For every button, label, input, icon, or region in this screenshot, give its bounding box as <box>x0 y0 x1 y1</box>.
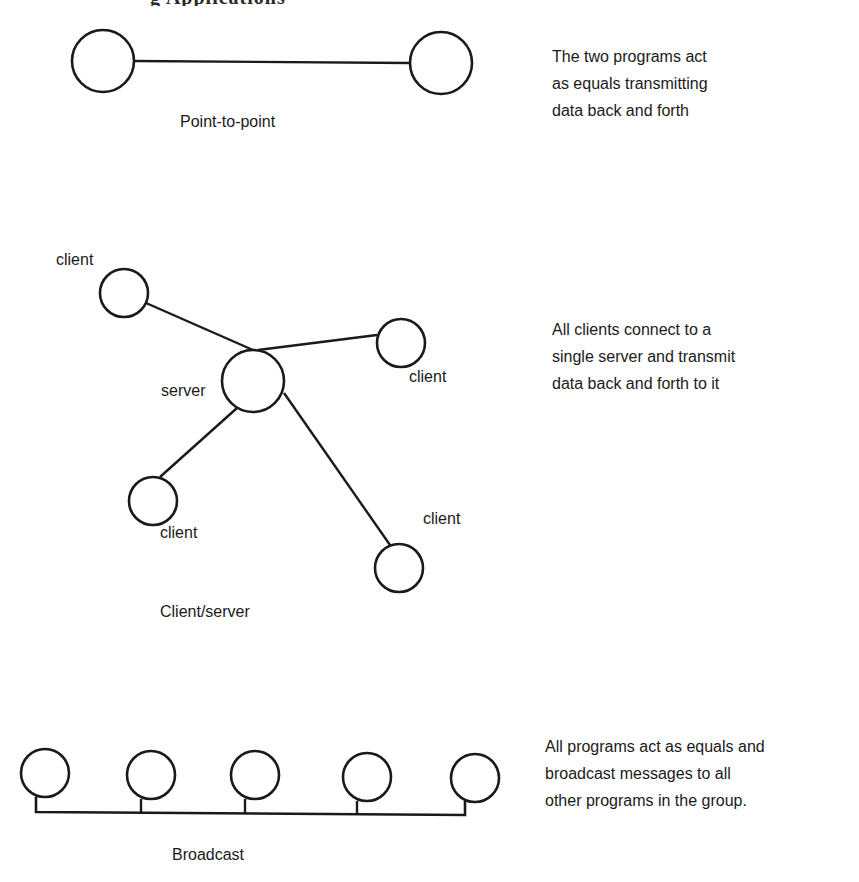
point-to-point-diagram <box>72 30 472 94</box>
server-label: server <box>161 382 205 400</box>
point-to-point-link <box>134 61 410 63</box>
client-server-caption: Client/server <box>160 603 250 621</box>
description-line: data back and forth to it <box>552 370 735 397</box>
server-node <box>222 350 284 412</box>
description-line: The two programs act <box>552 43 708 70</box>
description-line: single server and transmit <box>552 343 735 370</box>
broadcast-caption: Broadcast <box>172 846 244 864</box>
client-label-top-left: client <box>56 251 93 269</box>
description-line: All programs act as equals and <box>545 733 765 760</box>
description-line: data back and forth <box>552 97 708 124</box>
link-client-bottom-right-server <box>284 393 390 545</box>
description-line: as equals transmitting <box>552 70 708 97</box>
broadcast-node-5 <box>451 754 499 802</box>
client-label-bottom-right: client <box>423 510 460 528</box>
description-line: broadcast messages to all <box>545 760 765 787</box>
point-to-point-description: The two programs act as equals transmitt… <box>552 43 708 124</box>
broadcast-node-3 <box>231 751 279 799</box>
description-line: other programs in the group. <box>545 787 765 814</box>
program-node-left <box>72 30 134 92</box>
client-label-right: client <box>409 368 446 386</box>
client-node-bottom-right <box>375 544 423 592</box>
client-server-description: All clients connect to a single server a… <box>552 316 735 397</box>
program-node-right <box>410 32 472 94</box>
client-node-right <box>377 319 425 367</box>
broadcast-diagram <box>21 749 499 815</box>
client-node-top-left <box>100 269 148 317</box>
broadcast-description: All programs act as equals and broadcast… <box>545 733 765 814</box>
broadcast-node-2 <box>127 751 175 799</box>
client-server-diagram <box>100 269 425 592</box>
client-label-bottom-left: client <box>160 524 197 542</box>
point-to-point-caption: Point-to-point <box>180 113 275 131</box>
link-client-top-left-server <box>146 303 253 350</box>
broadcast-node-1 <box>21 749 69 797</box>
description-line: All clients connect to a <box>552 316 735 343</box>
client-node-bottom-left <box>129 477 177 525</box>
link-client-right-server <box>258 335 377 350</box>
network-topologies-figure: g Applications <box>0 0 859 882</box>
broadcast-node-4 <box>343 753 391 801</box>
link-client-bottom-left-server <box>160 408 237 477</box>
